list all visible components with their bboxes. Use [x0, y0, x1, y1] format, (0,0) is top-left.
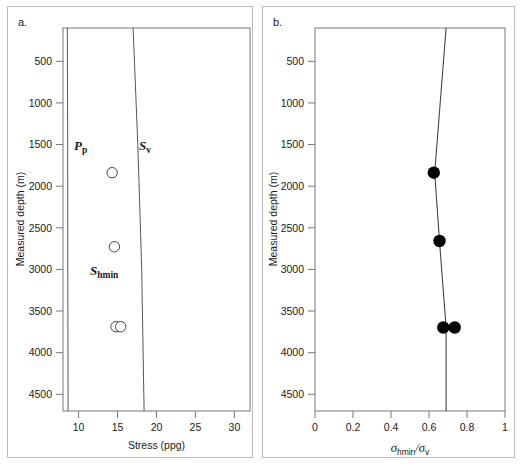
figure-container: a. 500 1000 1500 2000: [0, 0, 522, 464]
panel-a-axes-frame: [63, 28, 250, 411]
x-tick-15: 15: [112, 421, 124, 433]
sv-curve: [133, 28, 144, 411]
panel-b-y-ticks: [308, 61, 315, 394]
panel-b-y-axis-title: Measured depth (m): [267, 172, 279, 267]
panel-a-y-axis-title: Measured depth (m): [14, 172, 26, 267]
panel-a-y-ticklabels: 500 1000 1500 2000 2500 3000 3500 4000 4…: [29, 55, 53, 400]
x-tick-25: 25: [190, 421, 202, 433]
y-tick-1000: 1000: [29, 97, 53, 109]
ratio-point: [437, 321, 449, 333]
x-tick-0p8: 0.8: [460, 421, 475, 433]
y-tick-2000: 2000: [29, 180, 53, 192]
x-tick-0p2: 0.2: [346, 421, 361, 433]
panel-b-axes-frame: [315, 28, 505, 411]
x-tick-0: 0: [312, 421, 318, 433]
panel-a-x-axis-title: Stress (ppg): [128, 439, 185, 451]
y-tick-500: 500: [286, 55, 304, 67]
x-tick-10: 10: [73, 421, 85, 433]
sv-label: Sv: [139, 138, 151, 155]
x-tick-0p4: 0.4: [384, 421, 399, 433]
y-tick-2000: 2000: [281, 180, 305, 192]
y-tick-3500: 3500: [29, 305, 53, 317]
panel-a-plot: 500 1000 1500 2000 2500 3000 3500 4000 4…: [8, 7, 254, 459]
shmin-label: Shmin: [90, 263, 119, 280]
shmin-point: [116, 322, 126, 332]
stress-ratio-trend-line: [435, 28, 446, 411]
x-tick-1: 1: [502, 421, 508, 433]
x-tick-30: 30: [229, 421, 241, 433]
y-tick-2500: 2500: [281, 222, 305, 234]
shmin-point: [109, 242, 119, 252]
pp-label: Pp: [74, 138, 87, 155]
y-tick-3000: 3000: [29, 263, 53, 275]
panel-b-x-ticks: [315, 411, 505, 418]
shmin-data-points: [107, 168, 126, 332]
y-tick-3000: 3000: [281, 263, 305, 275]
y-tick-500: 500: [34, 55, 52, 67]
panel-a-x-ticks: [79, 411, 235, 418]
x-tick-20: 20: [151, 421, 163, 433]
y-tick-1500: 1500: [29, 138, 53, 150]
y-tick-4000: 4000: [29, 346, 53, 358]
pp-curve: [67, 28, 68, 411]
panel-a-x-ticklabels: 10 15 20 25 30: [73, 421, 241, 433]
x-tick-0p6: 0.6: [422, 421, 437, 433]
ratio-point: [428, 167, 440, 179]
panel-a: a. 500 1000 1500 2000: [7, 6, 253, 458]
panel-b-x-axis-title: σhmin/σv: [391, 441, 430, 457]
panel-b-plot: 500 1000 1500 2000 2500 3000 3500 4000 4…: [263, 7, 516, 459]
panel-b: b. 500 1000 1500 2000: [262, 6, 515, 458]
panel-b-x-ticklabels: 0 0.2 0.4 0.6 0.8 1: [312, 421, 508, 433]
shmin-point: [107, 168, 117, 178]
y-tick-3500: 3500: [281, 305, 305, 317]
panel-b-y-ticklabels: 500 1000 1500 2000 2500 3000 3500 4000 4…: [281, 55, 305, 400]
y-tick-4500: 4500: [281, 388, 305, 400]
ratio-point: [433, 235, 445, 247]
y-tick-4000: 4000: [281, 346, 305, 358]
y-tick-4500: 4500: [29, 388, 53, 400]
y-tick-1500: 1500: [281, 138, 305, 150]
panel-a-y-ticks: [56, 61, 63, 394]
y-tick-2500: 2500: [29, 222, 53, 234]
y-tick-1000: 1000: [281, 97, 305, 109]
ratio-point: [449, 321, 461, 333]
